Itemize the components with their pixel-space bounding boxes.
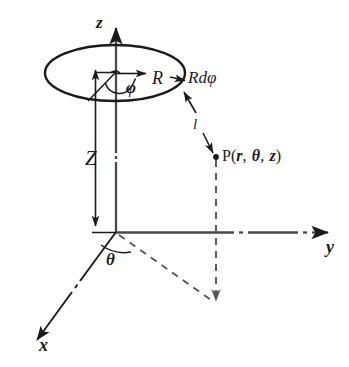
field-point-prefix: P: [222, 147, 231, 164]
y-axis-label: y: [326, 238, 334, 256]
field-point-close-paren: ): [276, 147, 281, 164]
field-point-label: P(r, θ, z): [222, 148, 281, 164]
figure-canvas: [0, 0, 349, 367]
z-axis-label: z: [96, 14, 103, 31]
x-axis-label: x: [39, 336, 48, 354]
distance-arrow: [203, 133, 213, 153]
cylindrical-coordinates-figure: z y x Z φ R Rdφ θ l P(r, θ, z): [0, 0, 349, 367]
distance-label: l: [193, 117, 197, 132]
field-point-comma-2: ,: [260, 147, 264, 164]
field-point-comma-1: ,: [242, 147, 246, 164]
field-point: [213, 154, 219, 160]
phi-angle-label: φ: [126, 79, 136, 96]
height-label: Z: [85, 148, 97, 169]
ring-radius-label: R: [152, 69, 163, 87]
projection-radial: [119, 235, 214, 302]
field-point-theta: θ: [252, 147, 260, 164]
arc-element-pointer: [184, 92, 196, 113]
theta-angle-label: θ: [106, 251, 115, 268]
x-axis: [37, 232, 116, 340]
arc-element-label: Rdφ: [188, 69, 216, 86]
